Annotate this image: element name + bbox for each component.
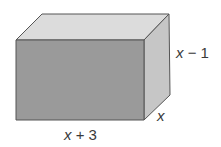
length-label-op: + (72, 126, 89, 143)
length-label: x + 3 (64, 127, 97, 142)
depth-label-var: x (157, 107, 165, 124)
prism-front-face (16, 40, 144, 120)
height-label-num: 1 (201, 44, 209, 61)
rectangular-prism-diagram (0, 0, 221, 147)
length-label-var: x (64, 126, 72, 143)
length-label-num: 3 (89, 126, 97, 143)
depth-label: x (157, 108, 165, 123)
prism-top-face (16, 14, 169, 40)
height-label: x − 1 (176, 45, 209, 60)
height-label-var: x (176, 44, 184, 61)
height-label-op: − (184, 44, 201, 61)
